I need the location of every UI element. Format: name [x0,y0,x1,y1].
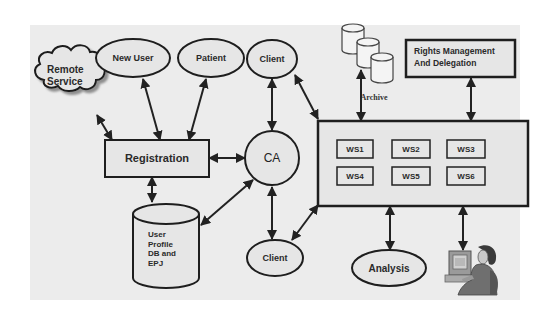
ws2-box: WS2 [392,140,430,158]
analysis-node: Analysis [352,250,426,286]
architecture-diagram: Remote Service New User Patient Client R… [0,0,549,315]
client-top-node: Client [247,40,297,78]
analysis-label: Analysis [368,263,410,274]
user-profile-db-node: User Profile DB and EPJ [133,204,199,288]
db-label-1: User [148,230,166,239]
client-top-label: Client [259,54,284,64]
client-bottom-node: Client [247,240,303,276]
ws6-label: WS6 [457,172,475,181]
remote-service-label-2: Service [47,76,83,87]
ws3-label: WS3 [457,145,475,154]
remote-service-node: Remote Service [35,45,105,91]
ws6-box: WS6 [447,167,485,185]
new-user-label: New User [112,53,154,63]
workstation-group-node: WS1 WS2 WS3 WS4 WS5 WS6 [318,121,528,206]
ws4-box: WS4 [337,167,373,185]
ws5-box: WS5 [392,167,430,185]
archive-cylinder-3 [371,53,393,83]
ca-node: CA [245,131,299,185]
archive-label: Archive [361,93,388,102]
patient-label: Patient [196,53,226,63]
ws3-box: WS3 [447,140,485,158]
ca-label: CA [264,151,281,165]
registration-node: Registration [105,140,209,177]
ws2-label: WS2 [402,145,420,154]
ws1-box: WS1 [337,140,373,158]
ws5-label: WS5 [402,172,420,181]
remote-service-label-1: Remote [47,64,84,75]
db-label-4: EPJ [148,259,163,268]
rights-management-node: Rights Management And Delegation [406,40,515,77]
ws1-label: WS1 [346,145,364,154]
rights-label-2: And Delegation [414,58,476,68]
ws4-label: WS4 [346,172,364,181]
db-label-2: Profile [148,240,173,249]
new-user-node: New User [96,39,170,77]
db-label-3: DB and [148,249,176,258]
rights-label-1: Rights Management [414,46,495,56]
patient-node: Patient [178,39,244,77]
client-bottom-label: Client [262,253,287,263]
registration-label: Registration [125,152,189,164]
